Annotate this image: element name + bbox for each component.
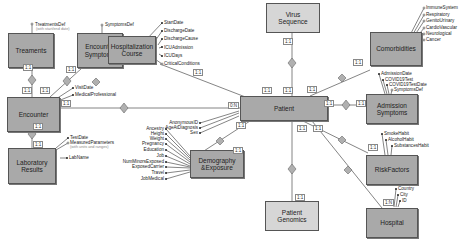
entity-treatments: Treaments — [8, 33, 54, 68]
card-gen-bot: 1:1 — [295, 194, 305, 201]
card-treat-top: 1:1 — [23, 64, 33, 71]
entity-patient-genomics: Patient Genomics — [265, 201, 319, 231]
card-virus-bot: 1:1 — [283, 87, 293, 94]
attr-visit-date: VisitDate — [75, 85, 93, 90]
entity-laboratory-results: Laboratory Results — [8, 148, 56, 184]
attr-treatments-note: (with start/end date) — [36, 27, 70, 31]
attr-cardio-vascular: CardioVascular — [426, 25, 457, 30]
attr-medical-professional: MedicalProfessional — [75, 92, 116, 97]
card-comorb-top: 1:1 — [353, 59, 363, 66]
attr-cancer: Cancer — [426, 37, 441, 42]
card-risk-bot: 1:1 — [368, 144, 378, 151]
entity-hospitalization-course: Hospitalization Course — [108, 36, 156, 64]
attr-discharge-cause: DischargeCause — [164, 36, 198, 41]
attr-pregnancy: Pregnancy — [142, 141, 164, 146]
card-enc-pat-right: 0:N — [228, 102, 239, 109]
attr-admission-symptoms-def: SymptomsDef — [394, 87, 423, 92]
attr-city: City — [400, 192, 408, 197]
entity-patient: Patient — [240, 96, 328, 121]
attr-travel: Travel — [151, 170, 164, 175]
card-virus-top: 1:1 — [283, 38, 293, 45]
attr-symptoms-def: SymptomsDef — [105, 22, 134, 27]
attr-job: Job — [157, 153, 164, 158]
attr-discharge-date: DischargeDate — [164, 28, 194, 33]
attr-respiratory: Respiratory — [426, 12, 450, 17]
attr-job-medical: JobMedical — [141, 176, 164, 181]
attr-icu-admission: ICUAdmission — [164, 45, 193, 50]
card-encsym-bot: 1:1 — [40, 87, 50, 94]
attr-id: ID — [402, 198, 407, 203]
card-admis-right: 1:1 — [356, 100, 366, 107]
card-hosp-bot: 1:1 — [262, 87, 272, 94]
card-enc-pat-left: 1:1 — [61, 100, 71, 107]
entity-virus-sequence: Virus Sequence — [266, 3, 320, 33]
card-demo-top: 1:1 — [236, 122, 246, 129]
attr-icu-days: ICUDays — [164, 53, 182, 58]
card-enc-lab-top: 1:1 — [33, 123, 43, 130]
attr-alcohol-habit: AlcoholHabit — [388, 137, 414, 142]
card-hospital-bot: 1:N — [383, 199, 394, 206]
card-encsym-top: 1:1 — [66, 66, 76, 73]
card-treat-bot: 1:1 — [22, 87, 32, 94]
attr-substances-habit: SubstancesHabit — [394, 143, 429, 148]
card-risk-top: 1:1 — [313, 125, 323, 132]
card-admis-left: 1:1 — [324, 100, 334, 107]
card-comorb-bot: 1:1 — [307, 86, 317, 93]
attr-genito-urinary: GenitoUrinary — [426, 18, 454, 23]
entity-admission-symptoms: Admission Symptoms — [366, 94, 418, 124]
attr-neurological: Neurological — [426, 31, 452, 36]
attr-start-date: StartDate — [164, 20, 183, 25]
card-enc-lab-bot: 1:1 — [33, 141, 43, 148]
card-hosp-top: 1:1 — [193, 69, 203, 76]
attr-immune-system: ImmuneSystem — [426, 5, 458, 10]
attr-measured-parameters-note: (with units and ranges) — [70, 145, 108, 149]
attr-country: Country — [398, 186, 414, 191]
attr-exposed-carrier: ExposedCarrier — [132, 164, 164, 169]
entity-comorbidities: Comorbidities — [370, 32, 422, 66]
attr-education: Education — [144, 147, 164, 152]
entity-risk-factors: RiskFactors — [366, 155, 418, 185]
attr-admission-date: AdmissionDate — [381, 71, 412, 76]
card-gen-top: 1:1 — [297, 125, 307, 132]
entity-demography-exposure: Demography &Exposure — [190, 150, 244, 178]
card-demo-bot: 1:1 — [233, 147, 243, 154]
attr-lab-name: LabName — [69, 155, 89, 160]
er-diagram: Treaments Encounter Symptoms Hospitaliza… — [0, 0, 474, 239]
attr-smoke-habit: SmokeHabit — [384, 131, 409, 136]
attr-sex: Sex — [190, 130, 198, 135]
entity-hospital: Hospital — [366, 208, 418, 238]
attr-critical-conditions: CriticalConditions — [164, 61, 200, 66]
